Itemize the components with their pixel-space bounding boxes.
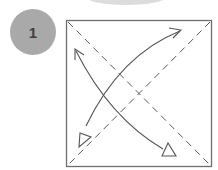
fold-diagram [0,0,218,170]
